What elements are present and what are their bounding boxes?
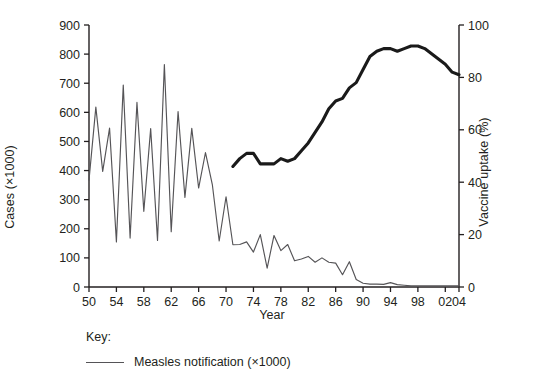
series-line-measles-notification — [89, 65, 459, 286]
plot-area: 0100200300400500600700800900020406080100… — [0, 0, 544, 320]
y-axis-left-tick-label: 200 — [59, 222, 80, 236]
y-axis-left-tick-label: 700 — [59, 77, 80, 91]
y-axis-left-tick-label: 900 — [59, 19, 80, 33]
y-axis-left-tick-label: 0 — [73, 281, 80, 295]
x-axis-tick-label: 74 — [246, 295, 260, 309]
y-axis-left-tick-label: 500 — [59, 135, 80, 149]
legend-title: Key: — [86, 330, 291, 344]
x-axis-tick-label: 90 — [356, 295, 370, 309]
x-axis-tick-label: 70 — [219, 295, 233, 309]
legend-line-swatch-measles — [86, 362, 124, 363]
y-axis-left-tick-label: 600 — [59, 106, 80, 120]
chart-figure: Cases (×1000) Vaccine uptake (%) Year 01… — [0, 0, 544, 373]
x-axis-tick-label: 04 — [452, 295, 466, 309]
x-axis-tick-label: 02 — [438, 295, 452, 309]
y-axis-left-tick-label: 300 — [59, 193, 80, 207]
x-axis-tick-label: 86 — [329, 295, 343, 309]
series-line-vaccine-uptake — [233, 46, 459, 167]
y-axis-right-tick-label: 80 — [468, 71, 482, 85]
legend-item-measles: Measles notification (×1000) — [86, 355, 291, 369]
legend-label-measles: Measles notification (×1000) — [134, 355, 291, 369]
x-axis-tick-label: 94 — [384, 295, 398, 309]
y-axis-left-tick-label: 400 — [59, 164, 80, 178]
x-axis-tick-label: 66 — [192, 295, 206, 309]
y-axis-right-tick-label: 40 — [468, 176, 482, 190]
y-axis-right-tick-label: 100 — [468, 19, 489, 33]
x-axis-tick-label: 54 — [109, 295, 123, 309]
y-axis-right-tick-label: 60 — [468, 123, 482, 137]
x-axis-tick-label: 50 — [82, 295, 96, 309]
y-axis-left-tick-label: 800 — [59, 48, 80, 62]
y-axis-left-tick-label: 100 — [59, 251, 80, 265]
x-axis-tick-label: 62 — [164, 295, 178, 309]
y-axis-right-tick-label: 0 — [468, 281, 475, 295]
x-axis-tick-label: 98 — [411, 295, 425, 309]
x-axis-tick-label: 82 — [301, 295, 315, 309]
x-axis-tick-label: 78 — [274, 295, 288, 309]
x-axis-tick-label: 58 — [137, 295, 151, 309]
chart-legend: Key: Measles notification (×1000) — [86, 330, 291, 369]
y-axis-right-tick-label: 20 — [468, 228, 482, 242]
